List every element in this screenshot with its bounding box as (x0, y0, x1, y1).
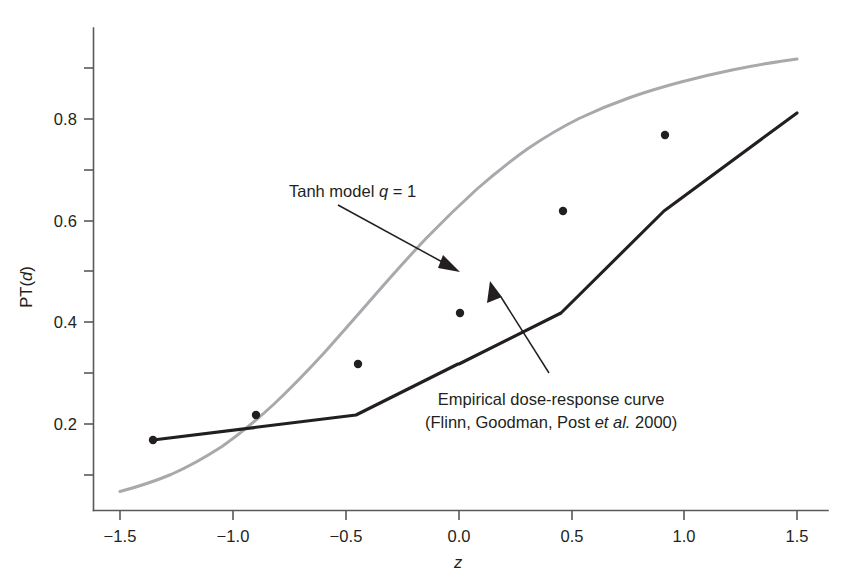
figure-chart-pt-vs-z: 0.8 0.6 0.4 0.2 −1.5 −1.0 −0.5 0.0 0.5 1… (0, 0, 846, 586)
x-tick-label-1.5: 1.5 (785, 527, 808, 546)
x-tick-label-0.5: 0.5 (560, 527, 583, 546)
x-axis-ticks-major (120, 511, 797, 521)
empirical-leader-line (501, 297, 549, 373)
annotation-arrow-tanh (338, 205, 460, 272)
data-point--0.90-0.20 (252, 411, 260, 419)
y-axis-title: PT(d) (17, 266, 36, 307)
y-axis-ticks-minor (84, 68, 94, 475)
chart-plot-area (0, 0, 846, 586)
y-tick-label-0.6: 0.6 (29, 212, 77, 231)
x-tick-label-1.0: 1.0 (672, 527, 695, 546)
empirical-arrow-head (487, 281, 502, 303)
data-point-0.00-0.40 (456, 309, 464, 317)
x-tick-label-0.0: 0.0 (447, 527, 470, 546)
x-axis-title: z (454, 553, 462, 572)
y-tick-label-0.4: 0.4 (29, 313, 77, 332)
annotation-empirical-line2-suffix: 2000) (630, 413, 677, 431)
x-tick-label--1.0: −1.0 (217, 527, 250, 546)
data-point-0.45-0.60 (559, 207, 567, 215)
annotation-empirical-line2-etal: et al. (595, 413, 631, 431)
data-point--0.45-0.30 (354, 360, 362, 368)
annotation-tanh-model: Tanh model q = 1 (289, 180, 416, 203)
annotation-empirical-line1: Empirical dose-response curve (425, 388, 677, 411)
y-tick-label-0.2: 0.2 (29, 415, 77, 434)
tanh-arrow-head (438, 255, 460, 272)
annotation-tanh-suffix: = 1 (388, 182, 416, 200)
data-point--1.35-0.15 (149, 436, 157, 444)
y-axis-title-prefix: PT( (17, 281, 35, 308)
annotation-empirical-line2-prefix: (Flinn, Goodman, Post (425, 413, 595, 431)
data-point-0.90-0.75 (661, 131, 669, 139)
x-tick-label--1.5: −1.5 (104, 527, 137, 546)
y-axis-title-suffix: ) (17, 266, 35, 272)
annotation-empirical-line2: (Flinn, Goodman, Post et al. 2000) (425, 411, 677, 434)
y-tick-label-0.8: 0.8 (29, 110, 77, 129)
annotation-arrow-empirical (487, 281, 549, 373)
annotation-empirical-curve: Empirical dose-response curve (Flinn, Go… (425, 388, 677, 434)
axis-lines (94, 28, 829, 511)
x-tick-label--0.5: −0.5 (330, 527, 363, 546)
annotation-tanh-prefix: Tanh model (289, 182, 379, 200)
y-axis-title-variable: d (17, 272, 35, 281)
annotation-tanh-variable: q (379, 182, 388, 200)
